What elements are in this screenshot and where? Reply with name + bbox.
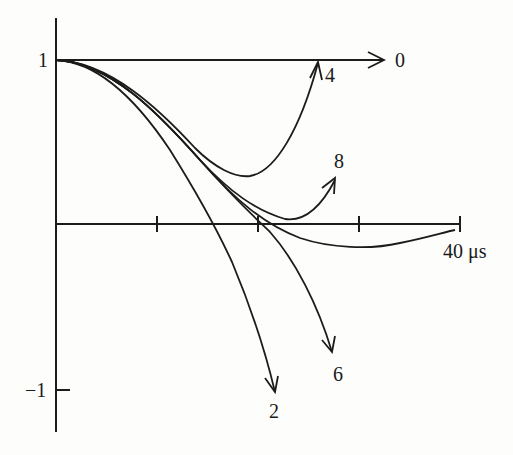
curve-label-2: 2 (269, 400, 279, 422)
x-label-40us: 40 μs (443, 240, 487, 263)
curve-4 (56, 60, 322, 176)
curve-8 (56, 60, 335, 219)
curve-label-0: 0 (395, 49, 405, 71)
chart: 1 −1 0 4 8 6 2 40 μs (0, 0, 513, 455)
curve-label-6: 6 (333, 363, 343, 385)
y-label-minus-one: −1 (25, 379, 46, 401)
y-label-one: 1 (38, 49, 48, 71)
curve-2 (56, 60, 278, 392)
curve-6 (56, 60, 335, 352)
curve-label-8: 8 (334, 150, 344, 172)
curve-label-4: 4 (325, 64, 335, 86)
